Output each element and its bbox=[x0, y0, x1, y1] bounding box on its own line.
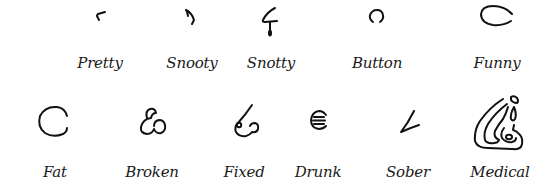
nose-label: Button bbox=[327, 54, 427, 72]
nose-label: Pretty bbox=[50, 54, 150, 72]
nose-label: Snotty bbox=[221, 54, 321, 72]
medical-nose-icon bbox=[450, 95, 550, 155]
nose-label: Broken bbox=[102, 163, 202, 181]
nose-label: Funny bbox=[447, 54, 547, 72]
nose-label: Drunk bbox=[268, 163, 368, 181]
funny-nose-icon bbox=[447, 0, 547, 50]
snotty-nose-icon bbox=[221, 0, 321, 50]
nose-label: Sober bbox=[358, 163, 458, 181]
pretty-nose-icon bbox=[50, 0, 150, 50]
nose-label: Fat bbox=[5, 163, 105, 181]
sober-nose-icon bbox=[358, 95, 458, 155]
button-nose-icon bbox=[327, 0, 427, 50]
drunk-nose-icon bbox=[268, 95, 368, 155]
fat-nose-icon bbox=[5, 95, 105, 155]
nose-label: Medical bbox=[450, 163, 550, 181]
broken-nose-icon bbox=[102, 95, 202, 155]
